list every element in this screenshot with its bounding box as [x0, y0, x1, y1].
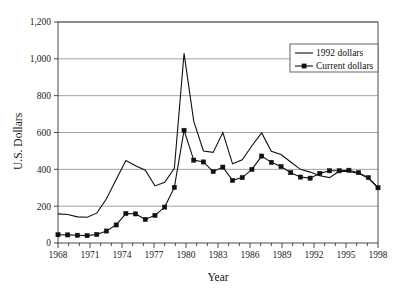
series-marker [250, 167, 254, 171]
series-line-1992-dollars [58, 53, 378, 217]
y-axis-ticks: 02004006008001,0001,200 [30, 17, 58, 248]
x-axis-title: Year [207, 271, 228, 283]
series-marker [240, 176, 244, 180]
series-marker [163, 205, 167, 209]
series-marker [66, 233, 70, 237]
x-tick-label: 1968 [49, 250, 68, 260]
x-tick-label: 1983 [209, 250, 228, 260]
x-tick-label: 1977 [145, 250, 164, 260]
x-tick-label: 1980 [177, 250, 196, 260]
series-marker [260, 154, 264, 158]
x-axis-ticks: 1968197119741977198019831986198919921995… [49, 243, 388, 260]
y-tick-label: 400 [37, 165, 52, 175]
series-line-current-dollars [58, 130, 378, 235]
x-tick-label: 1971 [81, 250, 100, 260]
series-marker [269, 160, 273, 164]
series-marker [124, 211, 128, 215]
series-marker [56, 233, 60, 237]
series-marker [318, 171, 322, 175]
series-marker [230, 178, 234, 182]
series-marker [289, 171, 293, 175]
series-marker [366, 176, 370, 180]
series-marker [201, 160, 205, 164]
series-marker [357, 171, 361, 175]
series-marker [114, 223, 118, 227]
y-tick-label: 800 [37, 91, 52, 101]
series-marker [95, 232, 99, 236]
legend-swatch-marker [302, 64, 307, 69]
legend-label: Current dollars [316, 61, 374, 71]
series-marker [104, 229, 108, 233]
x-tick-label: 1989 [273, 250, 292, 260]
series-marker [337, 169, 341, 173]
series-marker [211, 169, 215, 173]
x-tick-label: 1986 [241, 250, 260, 260]
series-marker [279, 164, 283, 168]
series-marker [182, 128, 186, 132]
series-marker [133, 212, 137, 216]
series-marker [192, 158, 196, 162]
y-tick-label: 600 [37, 128, 52, 138]
series-marker [143, 217, 147, 221]
chart-legend: 1992 dollarsCurrent dollars [290, 44, 378, 72]
x-tick-label: 1974 [113, 250, 132, 260]
series-marker [153, 213, 157, 217]
chart-container: 02004006008001,0001,200 1968197119741977… [0, 0, 411, 288]
series-marker [172, 185, 176, 189]
series-marker [85, 234, 89, 238]
series-marker [347, 168, 351, 172]
y-tick-label: 0 [46, 238, 51, 248]
series-marker [376, 186, 380, 190]
y-tick-label: 200 [37, 202, 52, 212]
x-tick-label: 1995 [337, 250, 356, 260]
series-marker [298, 175, 302, 179]
series-marker [308, 176, 312, 180]
line-chart: 02004006008001,0001,200 1968197119741977… [0, 0, 411, 288]
x-tick-label: 1998 [369, 250, 388, 260]
legend-label: 1992 dollars [316, 48, 364, 58]
y-axis-title: U.S. Dollars [12, 112, 24, 170]
data-series [56, 53, 380, 237]
series-marker [221, 165, 225, 169]
x-tick-label: 1992 [305, 250, 324, 260]
y-tick-label: 1,200 [30, 17, 52, 27]
y-tick-label: 1,000 [30, 54, 52, 64]
series-marker [75, 233, 79, 237]
series-marker [327, 169, 331, 173]
